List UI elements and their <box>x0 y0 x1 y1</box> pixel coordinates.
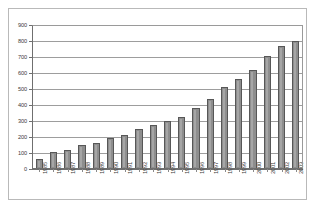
x-tick-mark-1992 <box>139 169 140 172</box>
bar-1991 <box>121 25 128 169</box>
bar-highlight-1995 <box>180 119 182 167</box>
y-axis-label-0: 0 <box>7 166 27 172</box>
bar-1996 <box>192 25 199 169</box>
bar-highlight-2001 <box>266 58 268 167</box>
x-tick-mark-1995 <box>182 169 183 172</box>
x-axis-label-2001: 2001 <box>270 162 276 174</box>
bar-2002 <box>278 25 285 169</box>
bar-highlight-1985 <box>38 161 40 167</box>
x-axis-label-1996: 1996 <box>199 162 205 174</box>
y-axis-label-200: 200 <box>7 134 27 140</box>
x-axis-label-1985: 1985 <box>42 162 48 174</box>
bar-rect-1998 <box>221 87 228 169</box>
bar-highlight-1992 <box>137 131 139 167</box>
x-tick-mark-1988 <box>82 169 83 172</box>
plot-area: 0100200300400500600700800900 19851986198… <box>32 25 303 169</box>
chart-frame: 0100200300400500600700800900 19851986198… <box>8 8 307 200</box>
bar-2003 <box>292 25 299 169</box>
x-tick-mark-1987 <box>68 169 69 172</box>
x-tick-mark-2000 <box>253 169 254 172</box>
y-tick-mark-0 <box>29 169 32 170</box>
x-axis-label-1988: 1988 <box>85 162 91 174</box>
y-axis-label-900: 900 <box>7 22 27 28</box>
x-axis-label-1990: 1990 <box>113 162 119 174</box>
y-axis-label-300: 300 <box>7 118 27 124</box>
bar-highlight-1996 <box>194 110 196 167</box>
x-tick-mark-1999 <box>239 169 240 172</box>
bar-highlight-1999 <box>237 81 239 167</box>
bar-1997 <box>207 25 214 169</box>
bar-highlight-1991 <box>123 137 125 167</box>
y-axis-label-500: 500 <box>7 86 27 92</box>
bar-1989 <box>93 25 100 169</box>
x-tick-mark-1989 <box>96 169 97 172</box>
x-axis-label-1994: 1994 <box>170 162 176 174</box>
bar-rect-2001 <box>264 56 271 169</box>
bar-2001 <box>264 25 271 169</box>
x-tick-mark-2003 <box>296 169 297 172</box>
bar-2000 <box>249 25 256 169</box>
bar-highlight-1986 <box>52 154 54 167</box>
x-axis-label-1999: 1999 <box>241 162 247 174</box>
x-tick-mark-1990 <box>110 169 111 172</box>
bar-1990 <box>107 25 114 169</box>
bar-rect-1996 <box>192 108 199 169</box>
bar-highlight-1993 <box>152 127 154 167</box>
x-axis-label-1995: 1995 <box>184 162 190 174</box>
x-tick-mark-1994 <box>168 169 169 172</box>
x-axis-label-2003: 2003 <box>298 162 304 174</box>
bar-highlight-1989 <box>95 145 97 167</box>
x-tick-mark-1997 <box>210 169 211 172</box>
bar-rect-2000 <box>249 70 256 169</box>
x-tick-mark-1991 <box>125 169 126 172</box>
x-axis-label-1987: 1987 <box>70 162 76 174</box>
bar-highlight-1998 <box>223 89 225 167</box>
bar-rect-1999 <box>235 79 242 169</box>
x-tick-mark-1985 <box>39 169 40 172</box>
y-axis-label-100: 100 <box>7 150 27 156</box>
bar-highlight-1987 <box>66 152 68 167</box>
y-axis-label-400: 400 <box>7 102 27 108</box>
x-tick-mark-2002 <box>282 169 283 172</box>
x-axis-label-1993: 1993 <box>156 162 162 174</box>
y-axis-label-700: 700 <box>7 54 27 60</box>
bar-highlight-1990 <box>109 140 111 167</box>
bar-1995 <box>178 25 185 169</box>
bar-highlight-2000 <box>251 72 253 167</box>
x-axis-label-1991: 1991 <box>127 162 133 174</box>
bar-highlight-1997 <box>209 101 211 167</box>
y-axis-label-800: 800 <box>7 38 27 44</box>
y-axis-label-600: 600 <box>7 70 27 76</box>
bar-1998 <box>221 25 228 169</box>
bar-1993 <box>150 25 157 169</box>
bar-1985 <box>36 25 43 169</box>
x-axis-label-1986: 1986 <box>56 162 62 174</box>
x-tick-mark-1993 <box>153 169 154 172</box>
bar-1992 <box>135 25 142 169</box>
x-tick-mark-1996 <box>196 169 197 172</box>
bar-rect-2003 <box>292 41 299 169</box>
x-tick-mark-1998 <box>225 169 226 172</box>
bar-1986 <box>50 25 57 169</box>
x-axis-label-2000: 2000 <box>256 162 262 174</box>
x-axis-label-1997: 1997 <box>213 162 219 174</box>
bar-rect-1997 <box>207 99 214 169</box>
bar-1987 <box>64 25 71 169</box>
bar-rect-2002 <box>278 46 285 169</box>
x-axis-label-1989: 1989 <box>99 162 105 174</box>
x-tick-mark-1986 <box>53 169 54 172</box>
bar-series <box>32 25 303 169</box>
bar-highlight-2002 <box>280 48 282 167</box>
bar-1988 <box>78 25 85 169</box>
x-axis-label-1998: 1998 <box>227 162 233 174</box>
bar-highlight-2003 <box>294 43 296 167</box>
bar-highlight-1994 <box>166 123 168 167</box>
bar-1994 <box>164 25 171 169</box>
bar-1999 <box>235 25 242 169</box>
x-tick-mark-2001 <box>267 169 268 172</box>
x-axis-label-1992: 1992 <box>142 162 148 174</box>
bar-highlight-1988 <box>80 147 82 167</box>
x-axis-label-2002: 2002 <box>284 162 290 174</box>
